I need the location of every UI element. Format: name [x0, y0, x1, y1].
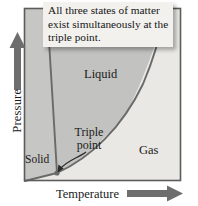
region-label-solid: Solid	[25, 153, 49, 165]
y-axis-label: Pressure	[11, 78, 25, 144]
region-label-liquid: Liquid	[84, 68, 117, 82]
x-axis-label: Temperature	[56, 188, 119, 202]
callout-text: All three states of matter exist simulta…	[48, 4, 172, 45]
phase-diagram-figure: All three states of matter exist simulta…	[0, 0, 198, 206]
region-label-gas: Gas	[139, 144, 158, 158]
temperature-axis-arrow-icon	[127, 186, 183, 202]
triple-point-label: Triple point	[66, 126, 112, 152]
